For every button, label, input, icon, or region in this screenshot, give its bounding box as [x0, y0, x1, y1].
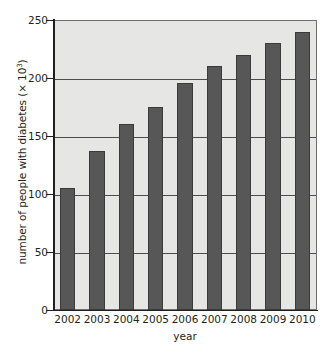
y-tick-label-150: 150 [22, 131, 48, 141]
x-tick-label-2006: 2006 [170, 313, 199, 326]
x-axis-line [53, 310, 318, 312]
bar-2008 [236, 55, 251, 310]
bars-layer [53, 20, 317, 310]
x-tick-label-2002: 2002 [53, 313, 82, 326]
bar-2003 [89, 151, 104, 310]
y-tick-label-50: 50 [22, 247, 48, 257]
bar-2009 [265, 43, 280, 310]
y-tick-mark-100 [46, 194, 54, 195]
y-tick-mark-50 [46, 252, 54, 253]
bar-2007 [207, 66, 222, 310]
y-tick-label-200: 200 [22, 73, 48, 83]
y-tick-mark-250 [46, 20, 54, 21]
x-axis-tick-labels: 200220032004200520062007200820092010 [53, 313, 317, 327]
x-tick-label-2003: 2003 [82, 313, 111, 326]
bar-2005 [148, 107, 163, 310]
bar-2006 [177, 83, 192, 310]
x-tick-label-2008: 2008 [229, 313, 258, 326]
bar-2010 [295, 32, 310, 310]
y-tick-label-250: 250 [22, 15, 48, 25]
y-axis-line [53, 19, 55, 311]
y-tick-mark-150 [46, 136, 54, 137]
y-tick-mark-0 [46, 310, 54, 311]
x-tick-label-2005: 2005 [141, 313, 170, 326]
y-tick-label-0: 0 [22, 305, 48, 315]
bar-2002 [60, 188, 75, 310]
y-axis-tick-labels: 050100150200250 [18, 0, 48, 356]
y-tick-label-100: 100 [22, 189, 48, 199]
x-tick-label-2009: 2009 [258, 313, 287, 326]
x-tick-label-2010: 2010 [288, 313, 317, 326]
bar-2004 [119, 124, 134, 310]
x-tick-label-2007: 2007 [200, 313, 229, 326]
y-tick-mark-200 [46, 78, 54, 79]
x-tick-label-2004: 2004 [112, 313, 141, 326]
bar-chart-figure: number of people with diabetes (× 103) 0… [0, 0, 332, 356]
x-axis-title: year [53, 330, 317, 342]
